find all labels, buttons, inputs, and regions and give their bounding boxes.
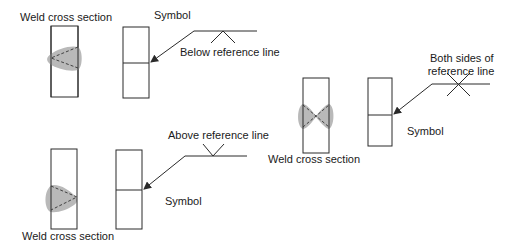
symbol-box bbox=[368, 78, 392, 146]
below-reference-line-label: Below reference line bbox=[180, 46, 280, 59]
both-sides-label-line2: reference line bbox=[426, 65, 496, 78]
both-sides-label-line1: Both sides of bbox=[430, 52, 492, 65]
weld-bead bbox=[46, 185, 78, 212]
arrow-leader bbox=[144, 156, 185, 189]
symbol-label: Symbol bbox=[154, 9, 191, 22]
above-reference-line-label: Above reference line bbox=[168, 129, 269, 142]
group-above-reference bbox=[46, 144, 248, 229]
weld-cross-section-label: Weld cross section bbox=[268, 153, 360, 166]
fillet-below-symbol bbox=[211, 31, 235, 43]
weld-cross-section-label: Weld cross section bbox=[22, 230, 114, 243]
arrow-leader bbox=[394, 84, 432, 114]
fillet-above-symbol bbox=[203, 144, 224, 156]
symbol-label: Symbol bbox=[407, 125, 444, 138]
symbol-label: Symbol bbox=[165, 195, 202, 208]
group-below-reference bbox=[47, 26, 257, 98]
group-both-sides-reference bbox=[298, 73, 490, 153]
weld-cross-section-label: Weld cross section bbox=[20, 11, 112, 24]
